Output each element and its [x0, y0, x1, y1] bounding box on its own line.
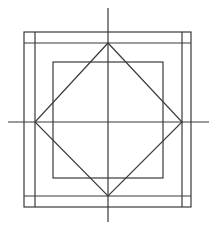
geometric-diagram [0, 0, 214, 233]
